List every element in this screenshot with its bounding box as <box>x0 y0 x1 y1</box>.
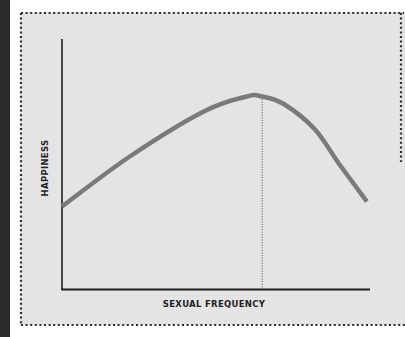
axes <box>61 39 370 290</box>
x-axis-label: SEXUAL FREQUENCY <box>163 299 266 309</box>
y-axis-label: HAPPINESS <box>40 140 50 197</box>
chart-figure: SEXUAL FREQUENCY HAPPINESS <box>0 0 405 337</box>
happiness-curve <box>62 95 367 206</box>
chart-canvas: SEXUAL FREQUENCY HAPPINESS <box>0 0 405 337</box>
dotted-border <box>21 13 405 325</box>
